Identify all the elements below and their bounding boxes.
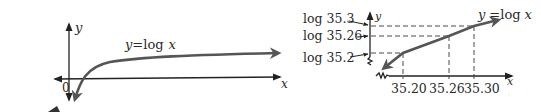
left-curve-label: y=logx [124,37,177,52]
x-axis-break-icon [376,73,389,78]
right-x-axis-label: x [507,75,514,88]
left-x-axis [55,77,280,79]
curve-label-lhs: y [477,7,486,22]
left-x-axis-label: x [281,77,288,91]
curve-label-var: x [169,37,177,52]
left-y-axis-label: y [74,20,83,35]
y-tick-label-0: log 35.3 [303,11,354,26]
y-tick-label-2: log 35.2 [303,50,354,65]
curve-label-eq: =log [132,37,163,52]
cropped-arrow-fragment [48,106,60,112]
y-tick-label-1: log 35.26 [303,28,362,43]
x-tick-label-2: 35.30 [464,81,500,96]
curve-label-eq: =log [489,7,520,22]
curve-label-var: x [525,7,533,22]
right-curve-label: y=logx [477,7,533,22]
right-y-axis-label: y [374,10,382,23]
log-curve [75,53,278,99]
y-axis-break-icon [368,57,372,65]
x-tick-label-0: 35.20 [391,81,427,96]
left-origin-label: 0 [62,81,70,95]
x-tick-label-1: 35.26 [429,81,465,96]
logarithm-diagram: y x 0 y=logx y x y=logx log 35.3 lo [0,0,541,112]
left-graph: y x 0 y=logx [48,20,288,112]
right-graph: y x y=logx log 35.3 log 35.26 log 35.2 3… [303,7,533,96]
log-curve-zoomed [384,20,498,68]
